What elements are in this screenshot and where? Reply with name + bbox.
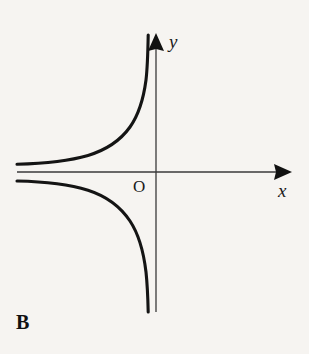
y-axis-label: y <box>167 31 178 52</box>
graph-canvas: y x O B <box>0 0 309 354</box>
origin-label: O <box>133 177 145 196</box>
hyperbola-lower-branch <box>17 181 148 312</box>
hyperbola-upper-branch <box>17 35 148 164</box>
x-axis-arrowhead <box>274 164 292 180</box>
hyperbola-figure-panel-b: y x O B <box>0 0 309 354</box>
panel-label: B <box>16 311 29 333</box>
y-axis-arrowhead <box>148 33 164 51</box>
x-axis-label: x <box>277 180 287 201</box>
